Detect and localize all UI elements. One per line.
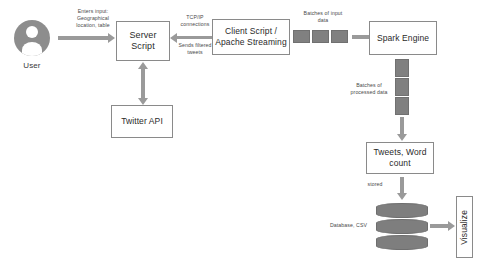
batch-input-3 [331,30,348,43]
node-server-script[interactable]: Server Script [116,21,170,61]
arrow-user-to-server [58,33,116,43]
database-disc-1 [376,203,428,218]
caption-enters-input: Enters input: Geographical location, tab… [62,8,124,28]
arrow-tweets-to-database [397,177,407,201]
batch-processed-1 [395,59,409,77]
node-spark-engine[interactable]: Spark Engine [369,21,437,55]
caption-batches-of-processed-data: Batches of processed data [340,82,398,96]
architecture-diagram: User Enters input: Geographical location… [0,0,491,263]
visualize-label: Visualize [459,210,470,245]
database-disc-2 [376,219,428,234]
batch-processed-2 [395,78,409,96]
database-cylinder-icon [376,203,428,251]
node-twitter-api[interactable]: Twitter API [111,105,173,138]
node-tweets-word-count[interactable]: Tweets, Word count [366,142,434,174]
arrow-database-to-visualize [430,221,458,231]
batch-input-1 [293,30,310,43]
user-avatar-icon [14,20,50,56]
arrow-processed-to-tweets [397,117,407,141]
batch-input-2 [312,30,329,43]
node-visualize[interactable]: Visualize [456,196,473,258]
caption-database-csv: Database, CSV [330,222,376,229]
node-client-script-apache-streaming[interactable]: Client Script / Apache Streaming [212,19,290,55]
caption-batches-of-input-data: Batches of input data [288,10,358,24]
batch-processed-3 [395,97,409,115]
caption-stored: stored [358,181,392,188]
user-label: User [4,61,60,71]
arrow-server-twitter-bidirectional [138,62,148,105]
database-disc-3 [376,235,428,250]
